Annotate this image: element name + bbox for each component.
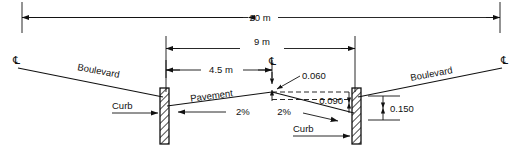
boulevard-left-label: Boulevard xyxy=(77,61,121,80)
crown-height-dimension: 0.060 xyxy=(272,70,326,101)
slope-left-callout: 2% xyxy=(178,106,250,117)
overall-width-label: 20 m xyxy=(249,12,270,23)
slope-right-callout: 2% xyxy=(277,106,338,121)
pavement-width-dimension: 9 m xyxy=(166,36,355,92)
slope-right-arrow xyxy=(303,113,338,121)
pavement-width-label: 9 m xyxy=(254,36,270,47)
crown-leader-line xyxy=(277,76,300,89)
curb-right-body xyxy=(352,88,361,144)
curb-right-label: Curb xyxy=(293,123,314,134)
centerline-glyph-left: ℄ xyxy=(12,54,20,66)
centerline-glyph-right: ℄ xyxy=(500,54,508,66)
gutter-depth-dimension: 0.090 xyxy=(319,92,349,113)
boulevard-right-group: ℄ Boulevard xyxy=(358,54,508,97)
half-pavement-width-dimension: 4.5 m xyxy=(166,60,272,78)
curb-left-label: Curb xyxy=(112,100,133,111)
centerline-symbol-road: ℄ xyxy=(268,55,276,67)
slope-left-label: 2% xyxy=(236,106,250,117)
pavement-label: Pavement xyxy=(190,87,234,104)
curb-left-body xyxy=(160,88,169,144)
curb-left-group: Curb xyxy=(112,88,169,144)
centerline-glyph-road: ℄ xyxy=(268,55,276,67)
curb-height-label: 0.150 xyxy=(390,103,414,114)
gutter-depth-label: 0.090 xyxy=(319,95,343,106)
crown-height-label: 0.060 xyxy=(302,70,326,81)
slope-right-label: 2% xyxy=(277,106,291,117)
overall-width-dimension: 20 m xyxy=(22,2,500,33)
boulevard-left-group: ℄ Boulevard xyxy=(12,54,164,97)
half-pavement-width-label: 4.5 m xyxy=(209,64,233,75)
cross-section-canvas: 20 m 9 m ℄ 4.5 m ℄ xyxy=(0,0,518,148)
roadway-cross-section-drawing: 20 m 9 m ℄ 4.5 m ℄ xyxy=(0,0,518,148)
boulevard-right-label: Boulevard xyxy=(409,64,453,83)
curb-height-dimension: 0.150 xyxy=(368,96,414,120)
